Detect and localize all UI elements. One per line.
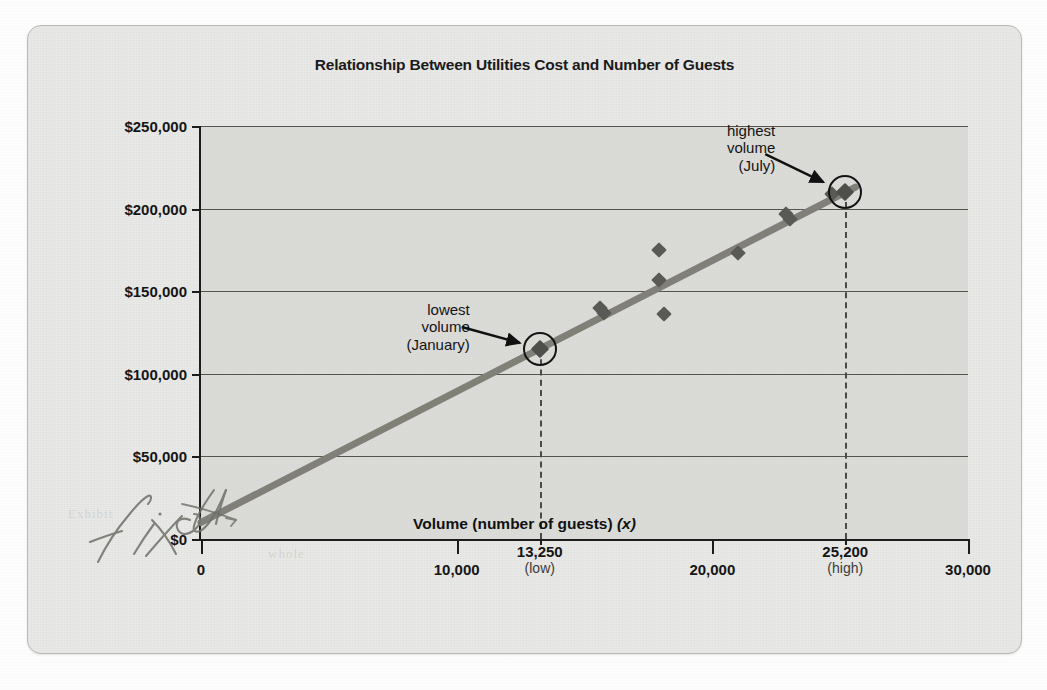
chart-title: Relationship Between Utilities Cost and … bbox=[28, 56, 1021, 74]
figure-card: Exhibit whole Relationship Between Utili… bbox=[27, 25, 1022, 654]
scanned-page: Exhibit whole Relationship Between Utili… bbox=[0, 0, 1047, 690]
callout-arrows bbox=[1, 86, 1001, 566]
plot-area: $0$50,000$100,000$150,000$200,000$250,00… bbox=[199, 126, 968, 541]
x-axis-title-text: Volume (number of guests) bbox=[413, 515, 617, 532]
x-axis-variable: (x) bbox=[617, 515, 636, 532]
x-axis-title: Volume (number of guests) (x) bbox=[28, 515, 1021, 533]
